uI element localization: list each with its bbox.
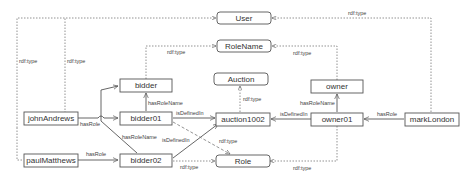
node-bidder01[interactable]: bidder01 (120, 112, 172, 125)
node-label: markLondon (410, 115, 454, 124)
node-auction1002[interactable]: auction1002 (216, 113, 270, 126)
node-label: Auction (228, 75, 255, 84)
node-paulmatthews[interactable]: paulMatthews (24, 154, 78, 167)
edge-owner01-role-rdftype: rdf:type (270, 126, 337, 171)
edge-label-rdftype: rdf:type (348, 10, 366, 16)
node-label: bidder02 (130, 156, 162, 165)
edge-label-hasrole: hasRole (86, 151, 106, 157)
edge-label-isdefinedin: isDefinedIn (280, 111, 308, 117)
class-node-user[interactable]: User (217, 12, 271, 24)
class-node-rolename[interactable]: RoleName (217, 40, 271, 52)
edge-bidder02-role-rdftype: rdf:type (173, 161, 215, 170)
edge-bidder02-auction1002-isdefinedin: isDefinedIn (162, 124, 218, 158)
node-johnandrews[interactable]: johnAndrews (24, 112, 78, 125)
node-label: RoleName (225, 42, 263, 51)
edge-label-isdefinedin: isDefinedIn (162, 137, 190, 143)
node-label: owner (326, 82, 348, 91)
node-label: auction1002 (221, 115, 265, 124)
node-owner01[interactable]: owner01 (311, 113, 363, 126)
class-node-role[interactable]: Role (216, 155, 270, 167)
edge-label-rdftype: rdf:type (293, 165, 311, 171)
edge-label-rdftype: rdf:type (180, 164, 198, 170)
edge-bidder01-auction1002-isdefinedin: isDefinedIn (173, 110, 215, 118)
edge-label-rdftype: rdf:type (67, 58, 85, 64)
class-node-auction[interactable]: Auction (214, 73, 268, 85)
rdf-graph-diagram: rdf:type rdf:type rdf:type rdf:type rdf:… (0, 0, 475, 182)
node-label: paulMatthews (26, 156, 75, 165)
node-bidder[interactable]: bidder (120, 79, 172, 92)
edge-owner01-owner-hasrolename: hasRoleName (300, 94, 337, 112)
node-label: owner01 (322, 115, 353, 124)
node-label: bidder01 (130, 114, 162, 123)
edge-bidder01-bidder-hasrolename: hasRoleName (146, 93, 183, 111)
edge-bidder-rolename-rdftype: rdf:type (146, 46, 216, 79)
node-label: Role (235, 157, 252, 166)
edge-label-hasrolename: hasRoleName (148, 100, 183, 106)
edge-auction1002-auction-rdftype: rdf:type (240, 86, 261, 115)
node-label: johnAndrews (27, 114, 74, 123)
edge-paulmatthews-bidder02-hasrole: hasRole (78, 151, 118, 160)
edge-label-rdftype: rdf:type (219, 138, 237, 144)
node-owner[interactable]: owner (311, 80, 363, 93)
edge-label-hasrole: hasRole (377, 111, 397, 117)
edge-label-rdftype: rdf:type (243, 96, 261, 102)
edge-label-hasrolename: hasRoleName (122, 134, 157, 140)
edge-label-rdftype: rdf:type (167, 49, 185, 55)
edge-paulmatthews-user-rdftype: rdf:type (17, 18, 85, 160)
edge-johnandrews-bidder01-hasrole: hasRole (78, 116, 118, 127)
edge-label-isdefinedin: isDefinedIn (176, 110, 204, 116)
node-marklondon[interactable]: markLondon (405, 113, 459, 126)
node-bidder02[interactable]: bidder02 (120, 154, 172, 167)
node-label: User (236, 14, 253, 23)
edge-label-hasrolename: hasRoleName (300, 100, 335, 106)
edge-marklondon-owner01-hasrole: hasRole (364, 111, 404, 119)
edge-owner-rolename-rdftype: rdf:type (272, 46, 337, 80)
edge-label-hasrole: hasRole (80, 121, 100, 127)
edge-owner01-auction1002-isdefinedin: isDefinedIn (271, 111, 311, 119)
edge-label-rdftype: rdf:type (19, 58, 37, 64)
edge-label-rdftype: rdf:type (293, 50, 311, 56)
edge-marklondon-user-rdftype: rdf:type (272, 10, 431, 115)
node-label: bidder (135, 81, 158, 90)
